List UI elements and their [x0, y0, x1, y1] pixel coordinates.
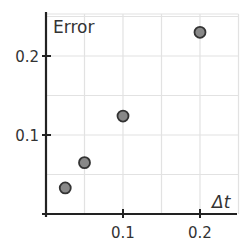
y-tick-label: 0.1 [15, 127, 39, 145]
x-tick-label: 0.2 [188, 224, 212, 242]
x-tick-label: 0.1 [111, 224, 135, 242]
data-point [79, 157, 90, 168]
data-point [60, 182, 71, 193]
y-tick-label: 0.2 [15, 48, 39, 66]
y-axis-label: Error [53, 17, 94, 37]
data-point [195, 27, 206, 38]
data-point [118, 111, 129, 122]
scatter-chart: 0.10.20.10.2 Error Δt [0, 0, 251, 250]
x-axis-label: Δt [210, 192, 232, 212]
grid [46, 14, 239, 214]
data-points [60, 27, 206, 194]
